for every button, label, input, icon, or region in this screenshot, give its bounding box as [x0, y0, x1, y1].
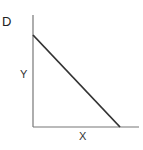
- data-line: [33, 35, 120, 127]
- chart-plot: [0, 0, 143, 150]
